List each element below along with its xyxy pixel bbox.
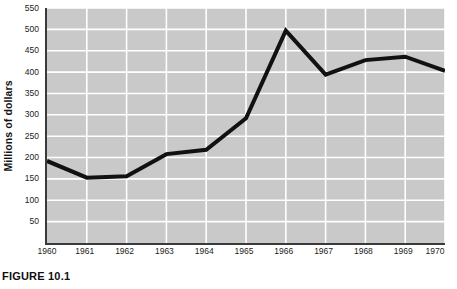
y-axis-title: Millions of dollars [0,8,16,244]
x-axis-tick-label: 1967 [314,246,333,257]
series-polyline [47,31,445,178]
y-axis-tick-label: 300 [25,110,39,119]
x-axis-tick-label: 1961 [75,246,94,257]
x-axis-tick-label: 1966 [274,246,293,257]
y-axis-tick-label: 100 [25,196,39,205]
y-axis-tick-label: 200 [25,153,39,162]
x-axis-tick-label: 1964 [195,246,214,257]
y-axis-tick-label: 50 [30,217,39,226]
y-axis-title-label: Millions of dollars [2,80,14,171]
figure-caption: FIGURE 10.1 [2,270,70,282]
y-axis-tick-label: 500 [25,25,39,34]
x-axis-tick-label: 1969 [394,246,413,257]
x-axis-tick-label: 1962 [115,246,134,257]
plot-area [45,8,445,245]
x-axis-tick-label: 1968 [354,246,373,257]
x-axis-tick-label-group: 1960196119621963196419651966196719681969… [0,246,457,260]
y-axis-tick-label: 350 [25,89,39,98]
y-axis-tick-label: 550 [25,4,39,13]
y-axis-tick-label: 250 [25,132,39,141]
x-axis-tick-label: 1970 [426,246,445,257]
x-axis-tick-label: 1965 [235,246,254,257]
figure-container: Millions of dollars 55050045040035030025… [0,0,457,289]
y-axis-tick-label: 450 [25,46,39,55]
y-axis-tick-label: 400 [25,68,39,77]
x-axis-tick-label: 1960 [38,246,57,257]
data-series-line [47,8,445,243]
y-axis-tick-label: 150 [25,174,39,183]
x-axis-tick-label: 1963 [155,246,174,257]
